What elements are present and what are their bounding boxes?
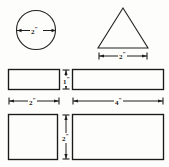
triangle-base-arrowhead-right — [142, 54, 147, 57]
circle-diameter-arrowhead-left — [17, 29, 22, 32]
small-rectangle-width-arrowhead-right — [54, 99, 59, 102]
triangle-shape — [98, 8, 148, 48]
wide-rectangle-top-shape — [73, 70, 164, 90]
wide-rectangle-width-arrowhead-right — [158, 99, 163, 102]
small-rectangle-width-arrowhead-left — [9, 99, 14, 102]
circle-diameter-label: 2" — [30, 26, 39, 36]
wide-rectangle-bottom-shape — [73, 115, 164, 160]
bottom-height-label: 2" — [61, 133, 70, 143]
wide-rectangle-width-arrowhead-left — [73, 99, 78, 102]
bottom-height-arrowhead-up — [64, 115, 67, 120]
top-height-arrowhead-up — [64, 70, 67, 75]
wide-rectangle-bottom-group — [73, 115, 164, 160]
wide-rectangle-width-label: 4" — [114, 97, 123, 107]
square-bottom-group — [9, 115, 58, 160]
figure-vector-layer — [0, 0, 169, 167]
figure-canvas: 2" 2" 2" 4" 1" 2" — [0, 0, 169, 167]
triangle-base-label: 2" — [118, 51, 127, 61]
triangle-base-arrowhead-left — [99, 54, 104, 57]
top-height-label: 1" — [62, 76, 71, 86]
small-rectangle-width-label: 2" — [28, 97, 37, 107]
square-bottom-shape — [9, 115, 58, 160]
bottom-height-arrowhead-down — [64, 154, 67, 159]
small-rectangle-shape — [9, 70, 60, 90]
